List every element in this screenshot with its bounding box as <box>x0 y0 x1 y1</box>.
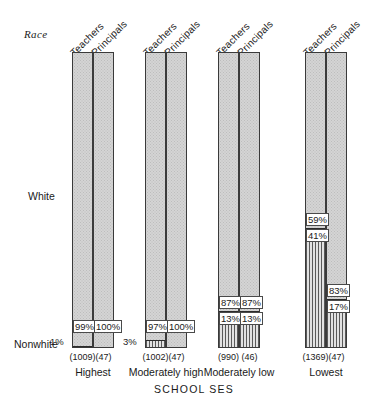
value-label-nonwhite: 3% <box>123 336 137 347</box>
bar-group-highest <box>72 52 114 348</box>
category-label: Lowest <box>266 366 386 378</box>
value-label-white: 59% <box>306 213 329 226</box>
segment-white <box>94 53 113 348</box>
segment-white <box>73 53 92 346</box>
value-label-white: 100% <box>167 320 195 333</box>
bar-teachers <box>305 52 326 348</box>
bar-principals <box>93 52 114 348</box>
race-axis-label: Race <box>24 28 48 40</box>
value-label-nonwhite: 13% <box>240 312 263 325</box>
sample-size-label: (47) <box>89 352 118 362</box>
row-label-white: White <box>28 190 55 202</box>
segment-white <box>219 53 238 311</box>
segment-nonwhite <box>146 340 165 348</box>
bar-principals <box>166 52 187 348</box>
value-label-nonwhite: 41% <box>306 229 329 242</box>
bar-group-moderately-high <box>145 52 187 348</box>
segment-white <box>306 53 325 228</box>
value-label-nonwhite: 17% <box>327 300 350 313</box>
bar-teachers <box>145 52 166 348</box>
segment-white <box>240 53 259 311</box>
value-label-white: 83% <box>327 284 350 297</box>
value-label-white: 99% <box>73 320 96 333</box>
value-label-nonwhite: 13% <box>219 312 242 325</box>
bar-teachers <box>72 52 93 348</box>
segment-white <box>327 53 346 299</box>
sample-size-label: (47) <box>162 352 191 362</box>
segment-nonwhite <box>73 346 92 348</box>
segment-white <box>167 53 186 348</box>
value-label-white: 87% <box>240 296 263 309</box>
sample-size-label: (47) <box>322 352 351 362</box>
value-label-white: 97% <box>146 320 169 333</box>
value-label-white: 87% <box>219 296 242 309</box>
segment-nonwhite <box>306 228 325 348</box>
segment-white <box>146 53 165 340</box>
sample-size-label: (46) <box>235 352 264 362</box>
stacked-bar-chart: Race White Nonwhite SCHOOL SES Teachers9… <box>0 0 388 403</box>
value-label-white: 100% <box>94 320 122 333</box>
value-label-nonwhite: 1% <box>50 336 64 347</box>
x-axis-title: SCHOOL SES <box>0 383 388 395</box>
